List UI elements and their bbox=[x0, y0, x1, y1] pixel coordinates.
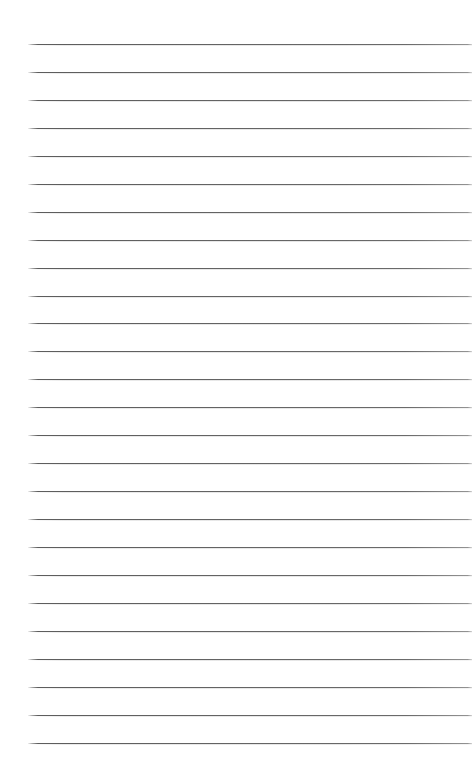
rule-line bbox=[28, 268, 472, 269]
ruled-sheet bbox=[0, 0, 475, 774]
rule-line bbox=[28, 240, 472, 241]
rule-line bbox=[28, 491, 472, 492]
rule-line bbox=[28, 743, 472, 744]
rule-line bbox=[28, 659, 472, 660]
rule-line bbox=[28, 323, 472, 324]
rule-line bbox=[28, 603, 472, 604]
rule-line bbox=[28, 72, 472, 73]
rule-line bbox=[28, 128, 472, 129]
rule-line bbox=[28, 435, 472, 436]
rule-line bbox=[28, 631, 472, 632]
rule-line bbox=[28, 156, 472, 157]
rule-line bbox=[28, 184, 472, 185]
rule-line bbox=[28, 463, 472, 464]
rule-line bbox=[28, 687, 472, 688]
rule-line bbox=[28, 379, 472, 380]
rule-line bbox=[28, 351, 472, 352]
lined-paper-page: Lined Paper bbox=[0, 0, 475, 774]
rule-line bbox=[28, 44, 472, 45]
rule-line bbox=[28, 296, 472, 297]
rule-line bbox=[28, 519, 472, 520]
rule-line bbox=[28, 715, 472, 716]
rule-line bbox=[28, 212, 472, 213]
rule-line bbox=[28, 575, 472, 576]
rule-line bbox=[28, 547, 472, 548]
rule-line bbox=[28, 407, 472, 408]
rule-line bbox=[28, 100, 472, 101]
